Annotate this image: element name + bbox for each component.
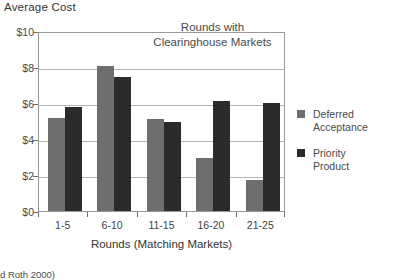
plot-area — [38, 32, 285, 212]
bar — [263, 103, 280, 211]
legend: DeferredAcceptancePriorityProduct — [297, 108, 392, 186]
x-axis-tick-mark — [284, 212, 285, 217]
bars-layer — [39, 33, 284, 211]
legend-item-label: Priority — [313, 147, 392, 160]
x-axis-tick-marks — [38, 212, 285, 218]
bar — [246, 180, 263, 212]
bar-group — [187, 33, 236, 211]
x-axis-labels: 1-56-1011-1516-2021-25 — [38, 219, 285, 235]
legend-swatch-icon — [297, 149, 305, 157]
x-axis-tick-mark — [137, 212, 138, 217]
bar-group — [237, 33, 286, 211]
bar-group — [88, 33, 137, 211]
x-axis-tick-mark — [186, 212, 187, 217]
x-axis-tick-label: 11-15 — [148, 219, 174, 231]
x-axis-tick-mark — [87, 212, 88, 217]
bar-group — [39, 33, 88, 211]
bar — [65, 107, 82, 211]
bar — [114, 77, 131, 211]
clearinghouse-note-line-1: Rounds with — [125, 20, 300, 35]
footer-caption: d Roth 2000) — [0, 269, 55, 280]
bar — [213, 101, 230, 211]
bar — [97, 66, 114, 211]
page-title: Average Cost — [4, 1, 76, 13]
x-axis-title: Rounds (Matching Markets) — [38, 238, 285, 250]
y-axis-tick-marks — [0, 32, 38, 212]
legend-item-label: Product — [313, 160, 392, 173]
clearinghouse-note-annotation: Rounds with Clearinghouse Markets — [125, 20, 300, 50]
x-axis-tick-label: 16-20 — [197, 219, 224, 231]
bar-group — [138, 33, 187, 211]
clearinghouse-note-line-2: Clearinghouse Markets — [125, 35, 300, 50]
bar — [164, 122, 181, 211]
bar — [147, 119, 164, 211]
bar — [196, 158, 213, 211]
legend-item[interactable]: PriorityProduct — [297, 147, 392, 173]
x-axis-tick-label: 1-5 — [55, 219, 70, 231]
x-axis-tick-mark — [236, 212, 237, 217]
bar — [48, 118, 65, 211]
legend-swatch-icon — [297, 110, 305, 118]
x-axis-tick-label: 21-25 — [247, 219, 274, 231]
legend-item-label: Deferred — [313, 108, 392, 121]
x-axis-tick-mark — [38, 212, 39, 217]
legend-item[interactable]: DeferredAcceptance — [297, 108, 392, 134]
legend-item-label: Acceptance — [313, 121, 392, 134]
x-axis-tick-label: 6-10 — [102, 219, 123, 231]
